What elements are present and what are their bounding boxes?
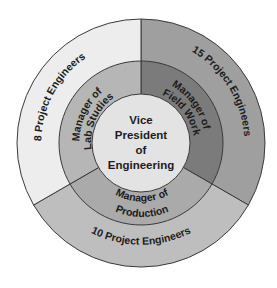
center-label-line4: Engineering [108,159,174,171]
org-ring-diagram: 8 Project Engineers 15 Project Engineers… [0,0,277,288]
center-label-line3: of [136,144,147,156]
vice-president-circle [92,94,190,192]
center-label-line1: Vice [129,114,152,126]
center-label-line2: President [115,129,168,141]
